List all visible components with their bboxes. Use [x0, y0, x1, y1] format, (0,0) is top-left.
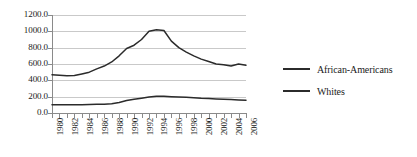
x-axis-tick-label: 1988 — [116, 118, 125, 135]
y-axis-tick-label: 400.0 — [2, 75, 48, 84]
x-axis-tick-label: 2000 — [205, 118, 214, 135]
legend-line-swatch-icon — [283, 68, 310, 70]
series-plot — [52, 15, 246, 113]
x-axis-tick-label: 1998 — [190, 118, 199, 135]
x-axis-labels: 1980198219841986198819901992199419961998… — [52, 118, 247, 156]
legend-label: African-Americans — [317, 64, 392, 75]
chart-legend: African-Americans Whites — [283, 60, 413, 104]
y-axis-tick-label: 800.0 — [2, 43, 48, 52]
line-series-african-americans — [52, 30, 246, 76]
x-axis-tick-label: 1990 — [131, 118, 140, 135]
x-axis-tick-label: 1986 — [101, 118, 110, 135]
legend-item-whites: Whites — [283, 82, 413, 100]
y-axis-tick-label: 600.0 — [2, 59, 48, 68]
x-axis-tick-label: 1994 — [160, 118, 169, 135]
x-axis-tick-label: 2002 — [220, 118, 229, 135]
x-axis-tick-label: 1980 — [56, 118, 65, 135]
y-axis-tick-label: 1200.0 — [2, 10, 48, 19]
x-axis-tick-label: 1992 — [146, 118, 155, 135]
chart-figure: 1200.01000.0800.0600.0400.0200.00.0 1980… — [0, 0, 417, 157]
x-axis-tick-label: 1996 — [175, 118, 184, 135]
y-axis-tick-label: 0.0 — [2, 108, 48, 117]
y-axis-tick-label: 1000.0 — [2, 26, 48, 35]
x-axis-tick-label: 2006 — [250, 118, 259, 135]
legend-item-african-americans: African-Americans — [283, 60, 413, 78]
line-series-whites — [52, 96, 246, 105]
legend-line-swatch-icon — [283, 90, 310, 92]
y-axis-tick-label: 200.0 — [2, 92, 48, 101]
x-axis-tick-label: 2004 — [235, 118, 244, 135]
x-axis-tick-label: 1984 — [86, 118, 95, 135]
x-axis-tick-label: 1982 — [71, 118, 80, 135]
y-axis: 1200.01000.0800.0600.0400.0200.00.0 — [0, 0, 48, 157]
legend-label: Whites — [317, 86, 345, 97]
